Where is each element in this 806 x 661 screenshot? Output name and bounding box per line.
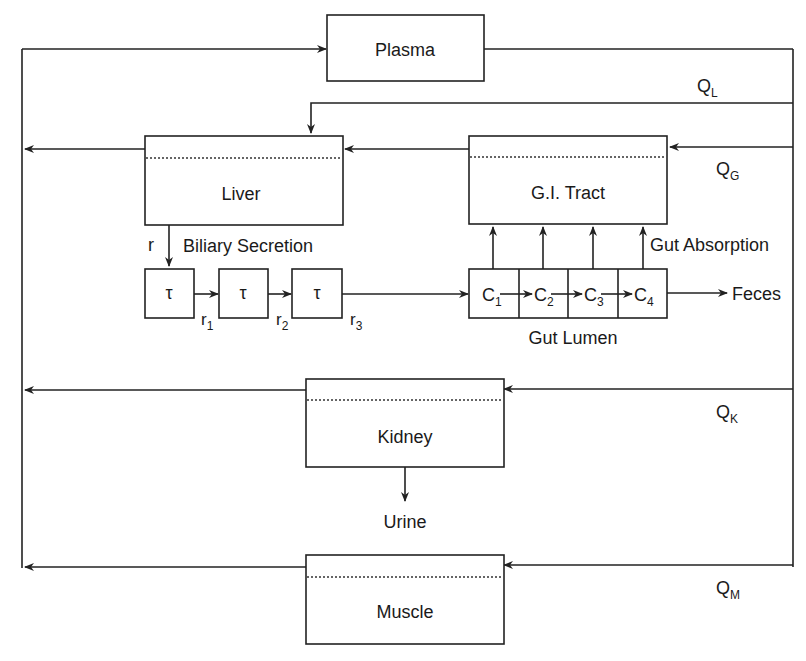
plasma-compartment: Plasma <box>327 15 484 81</box>
gi-tract-label: G.I. Tract <box>531 183 605 203</box>
feces-label: Feces <box>732 284 781 304</box>
delay-tau-1: τ <box>165 283 172 303</box>
flow-q-l: QL <box>697 76 718 100</box>
kidney-label: Kidney <box>377 427 432 447</box>
gi-tract-compartment: G.I. Tract <box>469 136 667 224</box>
liver-label: Liver <box>221 184 260 204</box>
flow-q-k: QK <box>716 402 738 426</box>
kidney-compartment: Kidney Urine <box>306 379 504 532</box>
delay-tau-2: τ <box>239 283 246 303</box>
delay-tau-3: τ <box>313 283 320 303</box>
rate-r3: r3 <box>350 310 363 333</box>
muscle-label: Muscle <box>376 602 433 622</box>
rate-r1: r1 <box>201 310 214 333</box>
arterial-lines <box>25 49 793 567</box>
flow-q-g: QG <box>716 159 739 183</box>
biliary-secretion-label: Biliary Secretion <box>183 236 313 256</box>
pbpk-diagram: Plasma Liver G.I. Tract QL QG QK QM r Bi… <box>0 0 806 661</box>
plasma-label: Plasma <box>375 40 436 60</box>
rate-r2: r2 <box>276 310 289 333</box>
rate-r: r <box>148 235 154 255</box>
liver-compartment: Liver <box>145 136 343 225</box>
flow-q-m: QM <box>716 578 740 602</box>
urine-label: Urine <box>383 512 426 532</box>
flow-labels: QL QG QK QM <box>697 76 740 602</box>
gut-lumen: Gut Absorption C1 C2 C3 C4 Feces Gut Lum… <box>469 227 781 348</box>
gut-lumen-label: Gut Lumen <box>528 328 617 348</box>
gut-absorption-label: Gut Absorption <box>650 235 769 255</box>
biliary-secretion: r Biliary Secretion τ τ τ r1 r2 r3 <box>145 225 468 333</box>
muscle-compartment: Muscle <box>306 555 504 644</box>
